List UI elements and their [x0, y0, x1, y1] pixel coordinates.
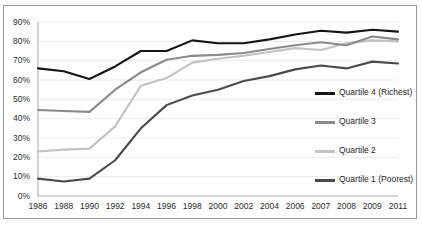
x-axis-tick-label: 2011 — [382, 202, 414, 211]
series-line — [38, 37, 398, 112]
y-axis-tick-label: 20% — [2, 153, 30, 162]
y-axis-tick-label: 70% — [2, 56, 30, 65]
legend-swatch — [315, 150, 335, 153]
legend-label: Quartile 4 (Richest) — [339, 88, 412, 97]
y-axis-tick-label: 60% — [2, 76, 30, 85]
y-axis-tick-label: 30% — [2, 134, 30, 143]
legend-swatch — [315, 179, 335, 182]
y-axis-tick-label: 80% — [2, 37, 30, 46]
legend-label: Quartile 3 — [339, 117, 376, 126]
y-axis-tick-label: 50% — [2, 95, 30, 104]
legend-label: Quartile 1 (Poorest) — [339, 175, 413, 184]
y-axis-tick-label: 10% — [2, 172, 30, 181]
y-axis-tick-label: 90% — [2, 18, 30, 27]
legend-label: Quartile 2 — [339, 146, 376, 155]
y-axis-tick-label: 0% — [2, 192, 30, 201]
chart-plot-area — [0, 0, 422, 228]
y-axis-tick-label: 40% — [2, 114, 30, 123]
chart-container: 90%80%70%60%50%40%30%20%10%0% 1986198819… — [0, 0, 422, 228]
legend-swatch — [315, 121, 335, 124]
legend-swatch — [315, 92, 335, 95]
